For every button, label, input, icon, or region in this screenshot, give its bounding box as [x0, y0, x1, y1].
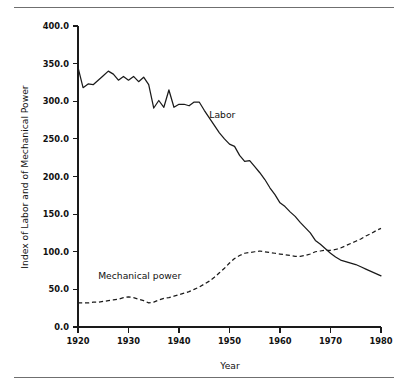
- y-tick-label: 50.0: [49, 284, 70, 294]
- x-axis-title: Year: [219, 360, 240, 371]
- x-tick-label: 1930: [117, 336, 140, 346]
- y-tick-label: 250.0: [43, 134, 69, 144]
- y-axis-ticks: [73, 26, 78, 327]
- line-chart: 0.050.0100.0150.0200.0250.0300.0350.0400…: [0, 0, 406, 390]
- x-tick-label: 1940: [167, 336, 190, 346]
- series-annotation-mechanical-power: Mechanical power: [98, 270, 181, 281]
- x-tick-label: 1970: [319, 336, 342, 346]
- y-tick-label: 0.0: [54, 322, 69, 332]
- y-axis-tick-labels: 0.050.0100.0150.0200.0250.0300.0350.0400…: [43, 21, 69, 332]
- y-tick-label: 100.0: [43, 247, 69, 257]
- y-tick-label: 300.0: [43, 96, 69, 106]
- x-tick-label: 1980: [369, 336, 392, 346]
- y-tick-label: 200.0: [43, 172, 69, 182]
- x-axis-tick-labels: 1920193019401950196019701980: [66, 336, 392, 346]
- x-tick-label: 1950: [218, 336, 241, 346]
- y-tick-label: 350.0: [43, 59, 69, 69]
- y-tick-label: 150.0: [43, 209, 69, 219]
- y-axis-title: Index of Labor and of Mechanical Power: [19, 85, 30, 268]
- series-line-labor: [78, 67, 381, 275]
- x-axis-ticks: [78, 327, 381, 333]
- y-tick-label: 400.0: [43, 21, 69, 31]
- figure-container: 0.050.0100.0150.0200.0250.0300.0350.0400…: [0, 0, 406, 390]
- x-tick-label: 1960: [268, 336, 291, 346]
- series-line-mechanical-power: [78, 228, 381, 303]
- x-tick-label: 1920: [66, 336, 89, 346]
- series-annotation-labor: Labor: [209, 109, 235, 120]
